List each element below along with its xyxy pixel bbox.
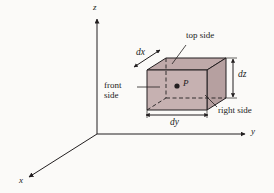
- dx-label: dx: [136, 48, 145, 58]
- y-axis-label: y: [251, 127, 255, 136]
- figure-canvas: z y x top side front side right side dx …: [0, 0, 274, 193]
- dz-label: dz: [238, 70, 246, 80]
- x-axis-label: x: [19, 176, 23, 185]
- axis-x: [29, 134, 97, 177]
- point-p-marker: [174, 83, 179, 88]
- dy-label: dy: [170, 118, 179, 128]
- x-axis-line: [29, 134, 97, 177]
- z-axis-label: z: [93, 3, 97, 12]
- box-front-face: [147, 70, 207, 110]
- right-side-label: right side: [218, 106, 252, 115]
- front-side-label-line2: side: [104, 90, 122, 100]
- front-side-label: front side: [104, 80, 122, 101]
- top-side-label: top side: [186, 31, 214, 40]
- figure-vector-graphics: [0, 0, 274, 193]
- point-p-label: P: [183, 79, 189, 88]
- front-side-label-line1: front: [104, 80, 122, 90]
